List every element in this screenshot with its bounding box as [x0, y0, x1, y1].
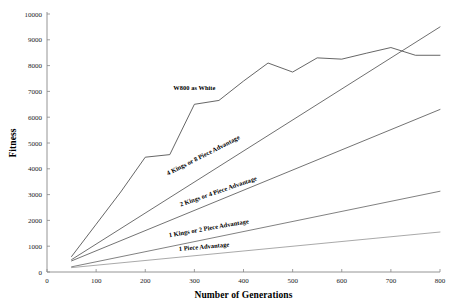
x-tick-label: 0: [45, 277, 49, 285]
x-tick-label: 800: [435, 277, 446, 285]
y-tick-label: 4000: [28, 165, 43, 173]
x-tick-label: 700: [386, 277, 397, 285]
series-lines: [72, 27, 440, 268]
y-axis-title: Fitness: [8, 128, 18, 157]
plot-area: 0100020003000400050006000700080009000100…: [25, 11, 446, 285]
y-tick-label: 3000: [28, 191, 43, 199]
series-inline-labels: W800 as White4 Kings or 8 Piece Advantag…: [165, 84, 257, 252]
series-label: 2 Kings or 4 Piece Advantage: [179, 174, 258, 207]
y-tick-label: 0: [39, 269, 43, 277]
x-tick-label: 200: [140, 277, 151, 285]
y-tick-label: 10000: [25, 11, 43, 19]
x-tick-label: 600: [337, 277, 348, 285]
series-line: [72, 109, 440, 260]
series-line: [72, 191, 440, 267]
series-line: [72, 27, 440, 260]
chart-canvas: 0100020003000400050006000700080009000100…: [0, 0, 449, 306]
y-tick-label: 7000: [28, 88, 43, 96]
series-label: W800 as White: [173, 84, 215, 91]
x-axis-ticks: 0100200300400500600700800: [45, 269, 446, 285]
y-tick-label: 6000: [28, 114, 43, 122]
fitness-vs-generations-chart: 0100020003000400050006000700080009000100…: [0, 0, 449, 306]
series-label: 1 Kings or 2 Piece Advantage: [168, 217, 249, 238]
y-axis-ticks: 0100020003000400050006000700080009000100…: [25, 11, 51, 277]
x-tick-label: 300: [189, 277, 200, 285]
x-tick-label: 400: [238, 277, 249, 285]
y-tick-label: 5000: [28, 140, 43, 148]
series-label: 1 Piece Advantage: [178, 241, 229, 252]
x-tick-label: 100: [91, 277, 102, 285]
x-tick-label: 500: [287, 277, 298, 285]
series-line: [72, 232, 440, 268]
y-tick-label: 1000: [28, 243, 43, 251]
x-axis-title: Number of Generations: [195, 290, 293, 300]
y-tick-label: 8000: [28, 62, 43, 70]
y-tick-label: 2000: [28, 217, 43, 225]
y-tick-label: 9000: [28, 36, 43, 44]
